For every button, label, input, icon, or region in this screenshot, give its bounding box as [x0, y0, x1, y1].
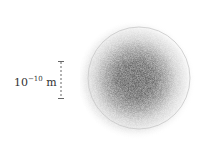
scale-bar — [56, 61, 66, 99]
scale-base: 10 — [14, 76, 28, 89]
electron-cloud — [80, 20, 200, 140]
scale-label: 10−10 m — [14, 72, 57, 90]
scale-exponent: −10 — [28, 75, 43, 83]
